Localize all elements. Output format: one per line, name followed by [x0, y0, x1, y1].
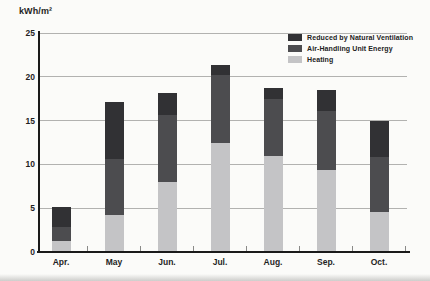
- segment-reduced-by-natural-ventilation: [105, 102, 124, 159]
- x-tick-label-jun: Jun.: [145, 257, 189, 267]
- y-tick-label-25: 25: [0, 28, 35, 38]
- legend-swatch: [288, 34, 302, 41]
- segment-air-handling-unit-energy: [52, 227, 71, 242]
- x-tick-label-aug: Aug.: [251, 257, 295, 267]
- segment-air-handling-unit-energy: [370, 157, 389, 212]
- segment-reduced-by-natural-ventilation: [158, 93, 177, 115]
- legend: Reduced by Natural VentilationAir-Handli…: [288, 33, 413, 66]
- segment-air-handling-unit-energy: [211, 75, 230, 143]
- segment-heating: [264, 156, 283, 252]
- chart: kWh/m² 0510152025Apr.MayJun.Jul.Aug.Sep.…: [0, 0, 430, 281]
- legend-label: Air-Handling Unit Energy: [307, 45, 393, 52]
- legend-item-air-handling-unit-energy: Air-Handling Unit Energy: [288, 44, 413, 52]
- legend-item-reduced-by-natural-ventilation: Reduced by Natural Ventilation: [288, 33, 413, 41]
- bar-jun: [158, 93, 177, 252]
- segment-heating: [370, 212, 389, 252]
- segment-heating: [211, 143, 230, 252]
- x-tick-label-apr: Apr.: [39, 257, 83, 267]
- x-tick-label-oct: Oct.: [357, 257, 401, 267]
- y-axis-line: [38, 31, 40, 253]
- segment-air-handling-unit-energy: [317, 111, 336, 170]
- y-tick-label-0: 0: [0, 247, 35, 257]
- segment-reduced-by-natural-ventilation: [52, 207, 71, 226]
- segment-heating: [158, 182, 177, 252]
- legend-label: Reduced by Natural Ventilation: [307, 34, 413, 41]
- y-axis-title: kWh/m²: [19, 6, 52, 16]
- segment-reduced-by-natural-ventilation: [370, 121, 389, 157]
- segment-air-handling-unit-energy: [264, 99, 283, 156]
- segment-heating: [317, 170, 336, 252]
- bar-sep: [317, 90, 336, 252]
- x-tick-label-sep: Sep.: [304, 257, 348, 267]
- legend-label: Heating: [307, 56, 333, 63]
- legend-swatch: [288, 45, 302, 52]
- bar-jul: [211, 65, 230, 252]
- y-tick-label-5: 5: [0, 203, 35, 213]
- y-tick-label-20: 20: [0, 72, 35, 82]
- bar-may: [105, 102, 124, 252]
- y-tick-label-15: 15: [0, 116, 35, 126]
- x-axis-line: [37, 251, 410, 253]
- legend-item-heating: Heating: [288, 55, 413, 63]
- segment-reduced-by-natural-ventilation: [317, 90, 336, 111]
- segment-air-handling-unit-energy: [105, 159, 124, 215]
- x-tick-label-may: May: [92, 257, 136, 267]
- bar-apr: [52, 207, 71, 252]
- y-tick-label-10: 10: [0, 159, 35, 169]
- segment-heating: [105, 215, 124, 252]
- x-tick-label-jul: Jul.: [198, 257, 242, 267]
- bar-oct: [370, 121, 389, 252]
- segment-reduced-by-natural-ventilation: [264, 88, 283, 99]
- legend-swatch: [288, 56, 302, 63]
- page-edge-shadow: [0, 274, 430, 281]
- segment-air-handling-unit-energy: [158, 115, 177, 182]
- bar-aug: [264, 88, 283, 252]
- segment-reduced-by-natural-ventilation: [211, 65, 230, 76]
